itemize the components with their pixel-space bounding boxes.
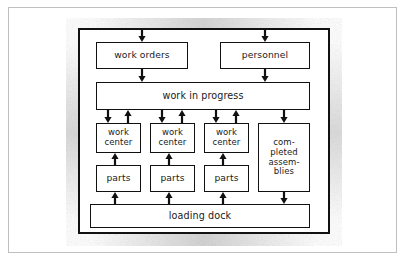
node-work-center-2-label: work center <box>159 128 187 147</box>
edge-loading-dock-to-parts-3 <box>219 192 226 204</box>
edge-work-center-3-to-wip <box>232 110 239 123</box>
edge-wip-to-work-center-2 <box>158 110 165 123</box>
diagram-page: work orders personnel work in progress w… <box>0 0 407 262</box>
node-parts-2-label: parts <box>160 173 184 183</box>
node-work-orders-label: work orders <box>114 50 170 60</box>
edge-completed-assemblies-to-loading-dock <box>280 192 287 204</box>
edge-work-center-2-to-wip <box>178 110 185 123</box>
node-loading-dock[interactable]: loading dock <box>90 204 310 228</box>
edge-work-orders-to-wip <box>138 69 145 82</box>
edge-outside-to-work-orders <box>138 28 145 42</box>
node-loading-dock-label: loading dock <box>169 211 231 222</box>
node-work-center-1-label: work center <box>105 128 133 147</box>
edge-parts-2-to-work-center-2 <box>165 153 172 165</box>
edge-wip-to-completed-assemblies <box>280 110 287 123</box>
node-parts-2[interactable]: parts <box>150 165 195 192</box>
edge-loading-dock-to-parts-2 <box>165 192 172 204</box>
edge-outside-to-personnel <box>261 28 268 42</box>
node-completed-assemblies[interactable]: com- pleted assem- blies <box>258 123 310 192</box>
node-work-in-progress[interactable]: work in progress <box>96 82 310 110</box>
edge-personnel-to-wip <box>261 69 268 82</box>
node-parts-1[interactable]: parts <box>96 165 141 192</box>
edge-parts-1-to-work-center-1 <box>111 153 118 165</box>
edge-wip-to-work-center-3 <box>212 110 219 123</box>
node-work-center-3[interactable]: work center <box>204 123 249 153</box>
edge-wip-to-work-center-1 <box>104 110 111 123</box>
node-work-center-1[interactable]: work center <box>96 123 141 153</box>
node-personnel-label: personnel <box>242 50 288 60</box>
node-work-center-3-label: work center <box>213 128 241 147</box>
edge-work-center-1-to-wip <box>124 110 131 123</box>
node-parts-1-label: parts <box>106 173 130 183</box>
diagram-outer-frame: work orders personnel work in progress w… <box>78 28 330 234</box>
node-work-orders[interactable]: work orders <box>96 42 188 69</box>
node-parts-3[interactable]: parts <box>204 165 249 192</box>
edge-loading-dock-to-parts-1 <box>111 192 118 204</box>
node-work-center-2[interactable]: work center <box>150 123 195 153</box>
node-parts-3-label: parts <box>214 173 238 183</box>
node-personnel[interactable]: personnel <box>220 42 310 69</box>
edge-parts-3-to-work-center-3 <box>219 153 226 165</box>
node-work-in-progress-label: work in progress <box>162 91 243 102</box>
node-completed-assemblies-label: com- pleted assem- blies <box>268 138 299 176</box>
